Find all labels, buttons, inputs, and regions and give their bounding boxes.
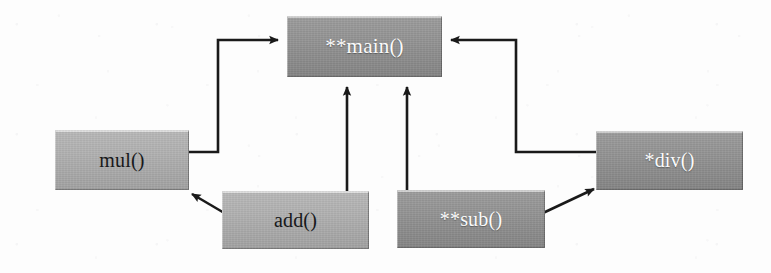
node-mul[interactable]: mul() [55, 130, 189, 190]
node-sub[interactable]: **sub() [397, 190, 545, 248]
node-div-label: *div() [644, 149, 694, 172]
node-mul-label: mul() [99, 149, 144, 172]
node-div[interactable]: *div() [596, 131, 743, 190]
node-add-label: add() [274, 209, 317, 232]
node-sub-label: **sub() [440, 208, 503, 231]
edge-add-to-mul [192, 194, 226, 214]
edge-mul-to-main [189, 40, 278, 152]
node-main-label: **main() [325, 34, 404, 59]
node-main[interactable]: **main() [287, 16, 442, 77]
edge-sub-to-div [543, 189, 594, 213]
node-add[interactable]: add() [222, 191, 369, 249]
diagram-canvas: **main() mul() *div() add() **sub() [0, 0, 771, 273]
edge-div-to-main [451, 40, 596, 152]
